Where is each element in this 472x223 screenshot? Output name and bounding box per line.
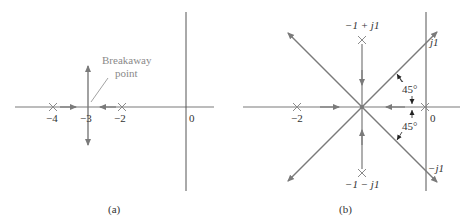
pole-label-lower: −1 − j1 [345, 179, 379, 190]
tick-label-minus2: −2 [291, 113, 303, 124]
tick-label-zero: 0 [189, 113, 195, 124]
breakaway-label-line2: point [115, 68, 138, 79]
breakaway-label-line1: Breakaway [102, 55, 151, 66]
angle-label-lower: 45° [402, 121, 417, 132]
asymptote-upper-left [288, 33, 362, 107]
angle-arrow-lower [397, 132, 402, 140]
tick-label-j1: j1 [430, 37, 439, 48]
tick-label-minus-j1: −j1 [428, 163, 444, 174]
tick-label-zero: 0 [430, 113, 436, 124]
tick-label-minus3: −3 [80, 113, 92, 124]
annotation-leader [91, 78, 108, 102]
root-locus-figure [0, 0, 472, 223]
panel-a [15, 12, 214, 191]
angle-arrow-upper [397, 74, 402, 82]
caption-a: (a) [108, 203, 120, 215]
angle-label-upper: 45° [402, 84, 417, 95]
tick-label-minus4: −4 [46, 113, 58, 124]
tick-label-minus2: −2 [114, 113, 126, 124]
asymptote-center [360, 105, 364, 109]
caption-b: (b) [339, 203, 352, 215]
pole-label-upper: −1 + j1 [345, 20, 379, 31]
